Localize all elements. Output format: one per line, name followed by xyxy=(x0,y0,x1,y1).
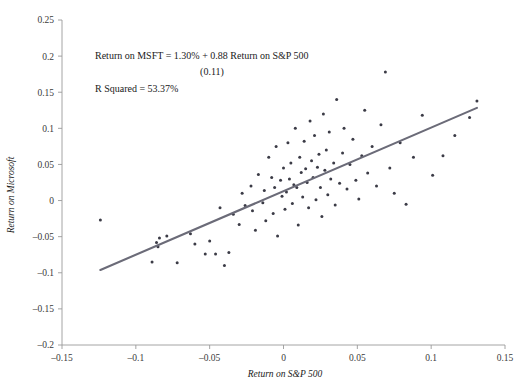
data-point xyxy=(357,198,360,201)
data-point xyxy=(441,154,444,157)
data-point xyxy=(254,229,257,232)
data-point xyxy=(363,109,366,112)
y-tick-label: 0.05 xyxy=(37,160,54,170)
x-tick-label: 0 xyxy=(281,353,286,363)
data-point xyxy=(275,145,278,148)
data-point xyxy=(412,156,415,159)
data-point xyxy=(338,182,341,185)
x-tick-label: 0.1 xyxy=(425,353,437,363)
data-point xyxy=(475,99,478,102)
x-tick-label: –0.1 xyxy=(127,353,145,363)
data-point xyxy=(375,185,378,188)
data-point xyxy=(273,186,276,189)
data-point xyxy=(155,241,158,244)
data-point xyxy=(343,127,346,130)
data-point xyxy=(319,186,322,189)
data-point xyxy=(384,71,387,74)
y-axis-tick-labels: –0.2–0.15–0.1–0.0500.050.10.150.20.25 xyxy=(32,15,62,350)
data-point xyxy=(332,162,335,165)
data-point xyxy=(345,188,348,191)
data-point xyxy=(371,145,374,148)
data-point xyxy=(294,127,297,130)
data-point xyxy=(282,167,285,170)
standard-error-annotation: (0.11) xyxy=(200,66,224,78)
data-point xyxy=(354,179,357,182)
data-point xyxy=(238,223,241,226)
data-point xyxy=(328,130,331,133)
x-tick-label: –0.15 xyxy=(50,353,73,363)
data-point xyxy=(214,253,217,256)
data-point xyxy=(250,185,253,188)
data-point xyxy=(325,149,328,152)
data-point xyxy=(270,176,273,179)
data-point xyxy=(276,234,279,237)
data-point xyxy=(316,166,319,169)
data-point xyxy=(301,195,304,198)
data-point xyxy=(264,219,267,222)
data-point xyxy=(193,242,196,245)
data-point xyxy=(219,206,222,209)
axes-group xyxy=(62,20,505,345)
y-tick-label: 0.1 xyxy=(42,124,54,134)
y-tick-label: –0.2 xyxy=(36,340,54,350)
data-point xyxy=(283,208,286,211)
x-tick-label: –0.05 xyxy=(198,353,221,363)
data-point xyxy=(279,179,282,182)
data-point xyxy=(208,240,211,243)
data-point xyxy=(158,237,161,240)
data-point xyxy=(393,192,396,195)
data-point xyxy=(388,167,391,170)
y-tick-label: –0.1 xyxy=(36,268,54,278)
y-tick-label: –0.15 xyxy=(32,304,55,314)
scatter-chart-container: –0.15–0.1–0.0500.050.10.15 –0.2–0.15–0.1… xyxy=(0,0,519,389)
data-point xyxy=(309,120,312,123)
y-tick-label: 0 xyxy=(49,196,54,206)
data-point xyxy=(468,116,471,119)
data-point xyxy=(165,234,168,237)
data-point xyxy=(310,159,313,162)
r-squared-annotation: R Squared = 53.37% xyxy=(95,83,178,94)
regression-trend-line xyxy=(100,108,477,270)
regression-scatter-plot: –0.15–0.1–0.0500.050.10.15 –0.2–0.15–0.1… xyxy=(0,0,519,389)
data-point xyxy=(241,192,244,195)
data-point xyxy=(263,189,266,192)
x-axis-tick-labels: –0.15–0.1–0.0500.050.10.15 xyxy=(50,345,513,363)
data-point xyxy=(334,203,337,206)
data-point xyxy=(204,253,207,256)
data-point xyxy=(351,138,354,141)
data-point xyxy=(314,198,317,201)
data-point xyxy=(227,251,230,254)
data-point xyxy=(335,98,338,101)
y-tick-label: 0.15 xyxy=(37,88,54,98)
data-points-group xyxy=(99,71,479,268)
data-point xyxy=(223,264,226,267)
data-point xyxy=(329,177,332,180)
data-point xyxy=(379,123,382,126)
data-point xyxy=(176,261,179,264)
data-point xyxy=(261,201,264,204)
data-point xyxy=(421,114,424,117)
data-point xyxy=(317,153,320,156)
data-point xyxy=(267,156,270,159)
data-point xyxy=(281,195,284,198)
regression-line xyxy=(100,108,477,270)
x-tick-label: 0.05 xyxy=(349,353,366,363)
data-point xyxy=(289,162,292,165)
x-axis-title: Return on S&P 500 xyxy=(247,369,323,379)
y-tick-label: 0.25 xyxy=(37,15,54,25)
y-tick-label: 0.2 xyxy=(42,52,54,62)
data-point xyxy=(323,169,326,172)
data-point xyxy=(251,209,254,212)
x-tick-label: 0.15 xyxy=(497,353,514,363)
data-point xyxy=(151,260,154,263)
y-tick-label: –0.05 xyxy=(32,232,55,242)
regression-equation-annotation: Return on MSFT = 1.30% + 0.88 Return on … xyxy=(95,50,309,61)
y-axis-title: Return on Microsoft xyxy=(6,156,16,234)
data-point xyxy=(320,215,323,218)
data-point xyxy=(341,151,344,154)
data-point xyxy=(303,140,306,143)
data-point xyxy=(298,156,301,159)
data-point xyxy=(286,141,289,144)
data-point xyxy=(300,171,303,174)
data-point xyxy=(366,172,369,175)
